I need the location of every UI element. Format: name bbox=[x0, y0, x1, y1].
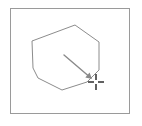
diagram-canvas bbox=[0, 0, 142, 126]
diagram-svg bbox=[0, 0, 142, 126]
canvas-background bbox=[0, 0, 142, 126]
